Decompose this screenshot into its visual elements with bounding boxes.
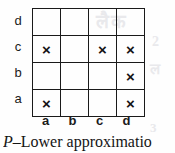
column-label-axis: a b c d: [32, 113, 140, 129]
cell-b-a[interactable]: [33, 63, 61, 90]
row-label-c: c: [8, 34, 28, 60]
cell-d-a[interactable]: [33, 9, 61, 36]
row-label-axis: d c b a: [8, 8, 28, 112]
matrix-table: × × × × × ×: [32, 8, 145, 117]
cell-mark: ×: [89, 41, 116, 56]
table-row: × × ×: [33, 36, 145, 63]
cell-b-d[interactable]: ×: [117, 63, 145, 90]
cell-c-a[interactable]: ×: [33, 36, 61, 63]
column-label-b: b: [59, 113, 86, 129]
column-label-d: d: [113, 113, 140, 129]
caption-text: Lower approximatio: [21, 133, 152, 150]
matrix-grid: × × × × × ×: [32, 8, 140, 112]
figure-canvas: लैक 2 ल 3 d c b a × × ×: [0, 0, 175, 153]
scan-bleed-artifact: 2: [152, 34, 159, 50]
cell-b-c[interactable]: [89, 63, 117, 90]
cell-d-c[interactable]: [89, 9, 117, 36]
cell-d-b[interactable]: [61, 9, 89, 36]
table-row: ×: [33, 63, 145, 90]
row-label-d: d: [8, 8, 28, 34]
column-label-a: a: [32, 113, 59, 129]
cell-c-d[interactable]: ×: [117, 36, 145, 63]
caption-separator: –: [13, 133, 21, 150]
caption-symbol: P: [3, 133, 13, 150]
row-label-a: a: [8, 86, 28, 112]
cell-mark: ×: [33, 41, 60, 56]
cell-mark: ×: [117, 68, 144, 83]
cell-d-d[interactable]: [117, 9, 145, 36]
cell-mark: ×: [117, 41, 144, 56]
cell-mark: ×: [33, 95, 60, 110]
cell-b-b[interactable]: [61, 63, 89, 90]
cell-c-b[interactable]: [61, 36, 89, 63]
cell-c-c[interactable]: ×: [89, 36, 117, 63]
row-label-b: b: [8, 60, 28, 86]
column-label-c: c: [86, 113, 113, 129]
scan-bleed-artifact: ल: [150, 58, 160, 78]
cell-mark: ×: [117, 95, 144, 110]
figure-caption: P–Lower approximatio: [3, 132, 175, 152]
table-row: [33, 9, 145, 36]
